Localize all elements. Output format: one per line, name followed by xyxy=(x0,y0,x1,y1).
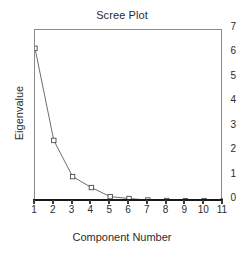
data-point-marker xyxy=(35,46,37,50)
plot-series-svg xyxy=(35,30,223,201)
x-axis-tick-label: 7 xyxy=(137,205,157,215)
y-axis-tick-label: 7 xyxy=(230,22,236,32)
data-point-marker xyxy=(70,174,74,178)
chart-title: Scree Plot xyxy=(0,9,244,21)
y-axis-tick-label: 4 xyxy=(230,95,236,105)
x-axis-tick-label: 2 xyxy=(43,205,63,215)
x-axis-tick-label: 3 xyxy=(62,205,82,215)
y-axis-tick-label: 6 xyxy=(230,46,236,56)
data-point-marker xyxy=(89,185,93,189)
x-axis-tick-label: 1 xyxy=(24,205,44,215)
x-axis-tick-label: 9 xyxy=(174,205,194,215)
x-axis-tick-label: 5 xyxy=(99,205,119,215)
data-point-marker xyxy=(52,138,56,142)
x-axis-tick-label: 6 xyxy=(118,205,138,215)
x-axis-tick-label: 10 xyxy=(193,205,213,215)
scree-plot-figure: Scree Plot 01234567 1234567891011 Compon… xyxy=(0,0,244,257)
plot-area xyxy=(34,29,222,200)
y-axis-tick-label: 0 xyxy=(230,193,236,203)
series-line xyxy=(35,48,223,201)
y-axis-tick-label: 3 xyxy=(230,120,236,130)
x-axis-title: Component Number xyxy=(0,231,244,243)
x-axis-tick-label: 11 xyxy=(212,205,232,215)
x-axis-tick-label: 8 xyxy=(156,205,176,215)
y-axis-tick-label: 1 xyxy=(230,169,236,179)
y-axis-tick-label: 2 xyxy=(230,144,236,154)
y-axis-tick-label: 5 xyxy=(230,71,236,81)
x-axis-tick-label: 4 xyxy=(80,205,100,215)
y-axis-title: Eigenvalue xyxy=(13,53,25,173)
